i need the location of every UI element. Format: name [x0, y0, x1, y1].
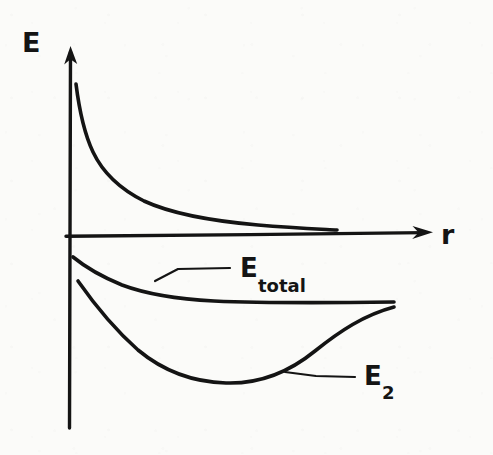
e-total-subscript: total [258, 275, 306, 296]
energy-axis-label: E [22, 27, 40, 58]
e-two-subscript: 2 [382, 382, 395, 403]
e-two-label: E [364, 361, 382, 391]
repulsive-curve [76, 84, 337, 230]
energy-diagram: E r E total E 2 [0, 0, 493, 455]
e-two-annotation: E 2 [285, 361, 395, 403]
separation-axis-label: r [441, 219, 455, 250]
e-total-label: E [240, 253, 258, 283]
e-two-curve [78, 281, 394, 383]
e-two-leader-line [285, 372, 355, 377]
e-total-annotation: E total [155, 253, 306, 296]
figure-canvas: E r E total E 2 [0, 0, 493, 455]
e-total-leader-line [155, 268, 230, 281]
separation-axis-line [66, 233, 424, 237]
energy-axis-line [70, 52, 71, 428]
e-total-curve [73, 257, 394, 303]
